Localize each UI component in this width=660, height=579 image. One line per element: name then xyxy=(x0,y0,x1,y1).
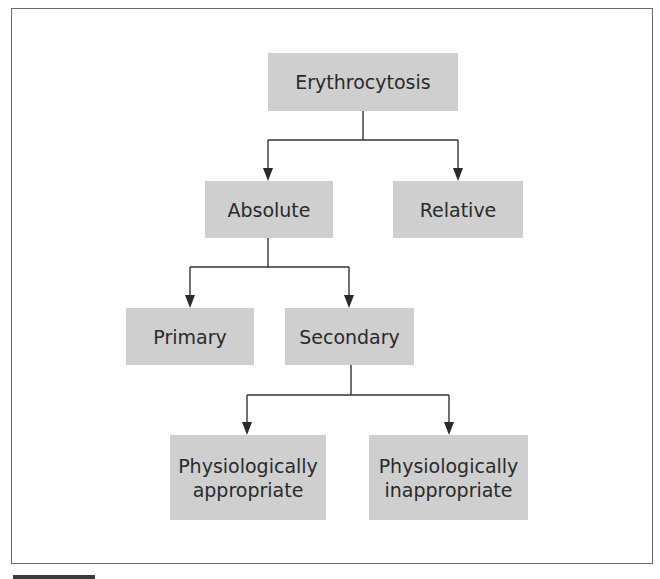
node-label: Absolute xyxy=(227,198,310,222)
node-secondary: Secondary xyxy=(285,308,414,365)
node-physiologically-appropriate: Physiologically appropriate xyxy=(170,435,326,520)
node-label: Relative xyxy=(420,198,497,222)
node-label: Primary xyxy=(153,325,226,349)
node-label-line1: Physiologically xyxy=(379,454,519,478)
node-primary: Primary xyxy=(126,308,254,365)
node-erythrocytosis: Erythrocytosis xyxy=(268,53,458,111)
node-label-line1: Physiologically xyxy=(178,454,318,478)
node-label-line2: appropriate xyxy=(193,478,304,502)
node-absolute: Absolute xyxy=(205,181,333,238)
node-physiologically-inappropriate: Physiologically inappropriate xyxy=(369,435,528,520)
figure-label-bar xyxy=(13,575,95,579)
node-label-line2: inappropriate xyxy=(384,478,512,502)
node-relative: Relative xyxy=(393,181,523,238)
node-label: Erythrocytosis xyxy=(295,70,430,94)
node-label: Secondary xyxy=(299,325,400,349)
